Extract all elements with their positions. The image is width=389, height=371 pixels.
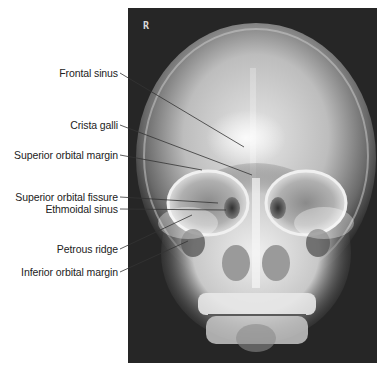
leader-lines bbox=[0, 0, 389, 371]
label-crista-galli: Crista galli bbox=[70, 119, 118, 131]
leader-line-frontal-sinus bbox=[120, 73, 244, 147]
leader-line-superior-orbital-fissure bbox=[120, 197, 218, 203]
leader-line-superior-orbital-margin bbox=[120, 155, 202, 170]
label-superior-orbital-margin: Superior orbital margin bbox=[14, 149, 118, 161]
leader-line-ethmoidal-sinus bbox=[120, 209, 226, 210]
label-frontal-sinus: Frontal sinus bbox=[59, 67, 118, 79]
label-petrous-ridge: Petrous ridge bbox=[57, 243, 118, 255]
figure: R Frontal sinus Crista galli Superior or… bbox=[0, 0, 389, 371]
label-superior-orbital-fissure: Superior orbital fissure bbox=[15, 191, 118, 203]
leader-line-crista-galli bbox=[120, 125, 252, 175]
label-ethmoidal-sinus: Ethmoidal sinus bbox=[45, 203, 118, 215]
label-inferior-orbital-margin: Inferior orbital margin bbox=[21, 266, 118, 278]
leader-line-inferior-orbital-margin bbox=[120, 241, 188, 272]
